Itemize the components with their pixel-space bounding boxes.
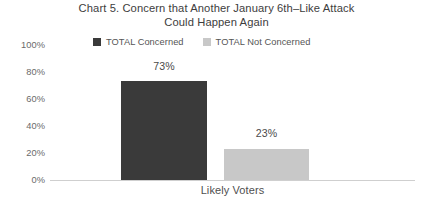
bar-value-total-concerned: 73%	[121, 60, 207, 72]
x-axis-label: Likely Voters	[50, 184, 415, 196]
plot-area: 100% 80% 60% 40% 20% 0% 73% 23% Likely V…	[0, 0, 433, 205]
bar-total-not-concerned[interactable]	[224, 149, 309, 180]
bar-value-total-not-concerned: 23%	[224, 127, 309, 139]
bar-series-group: 73% 23%	[0, 0, 433, 205]
chart-container: Chart 5. Concern that Another January 6t…	[0, 0, 433, 205]
bar-total-concerned[interactable]	[121, 81, 207, 180]
